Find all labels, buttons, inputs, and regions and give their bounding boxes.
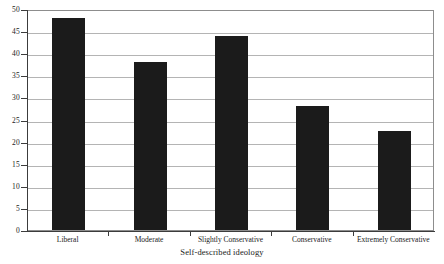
x-axis-tick-label: Moderate (108, 236, 189, 244)
y-axis-tick (21, 143, 27, 144)
y-axis-tick (21, 209, 27, 210)
y-axis-tick-label: 35 (2, 72, 20, 80)
x-axis-tick-label: Conservative (271, 236, 352, 244)
y-axis-tick (21, 32, 27, 33)
y-axis-tick (21, 231, 27, 232)
y-axis-tick (21, 10, 27, 11)
y-axis-tick-labels: 05101520253035404550 (0, 0, 444, 264)
y-axis-tick-label: 40 (2, 50, 20, 58)
y-axis-tick-label: 30 (2, 94, 20, 102)
y-axis-tick-label: 20 (2, 139, 20, 147)
x-axis-tick-label: Extremely Conservative (353, 236, 434, 244)
y-axis-tick (21, 165, 27, 166)
bar-chart: 05101520253035404550 LiberalModerateSlig… (0, 0, 444, 264)
y-axis-tick-label: 10 (2, 183, 20, 191)
y-axis-tick (21, 54, 27, 55)
y-axis-tick (21, 76, 27, 77)
y-axis-tick-label: 15 (2, 161, 20, 169)
y-axis-tick-label: 45 (2, 28, 20, 36)
x-axis-tick-label: Slightly Conservative (190, 236, 271, 244)
y-axis-tick (21, 121, 27, 122)
y-axis-tick (21, 187, 27, 188)
x-axis-title: Self-described ideology (0, 247, 444, 257)
y-axis-tick-label: 5 (2, 205, 20, 213)
y-axis-tick (21, 98, 27, 99)
x-axis-tick-label: Liberal (27, 236, 108, 244)
y-axis-tick-label: 50 (2, 6, 20, 14)
y-axis-tick-label: 25 (2, 117, 20, 125)
y-axis-tick-label: 0 (2, 227, 20, 235)
